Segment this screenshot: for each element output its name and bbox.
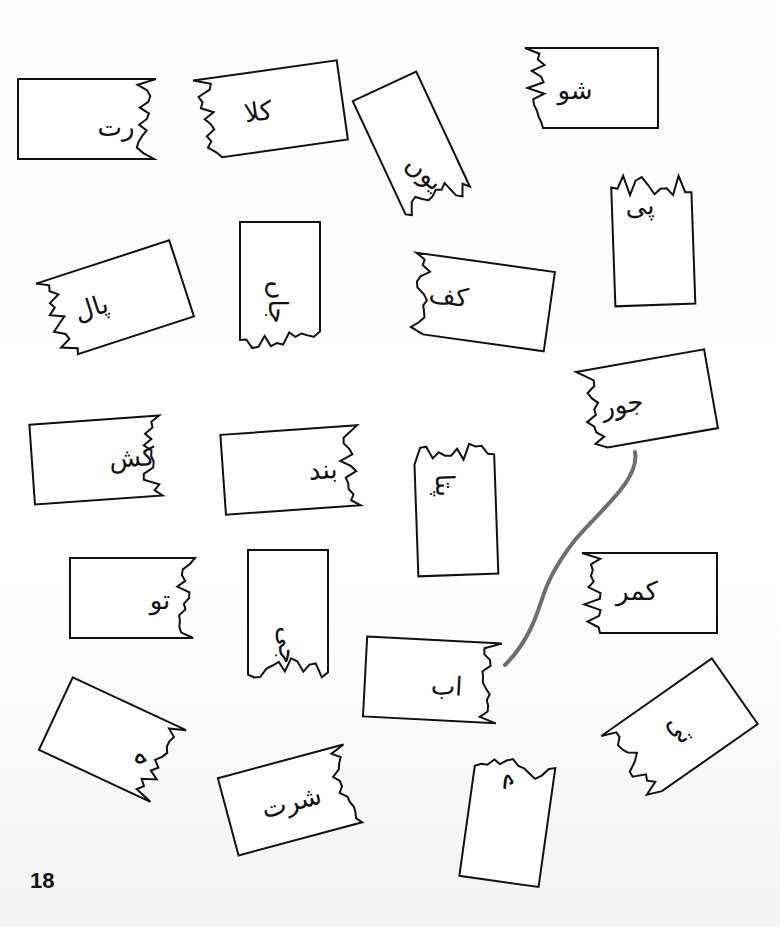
word-card[interactable]: کف <box>405 253 555 352</box>
torn-paper-shape <box>220 425 362 514</box>
word-card[interactable]: یوں <box>353 72 473 224</box>
word-card[interactable]: اب <box>363 637 502 724</box>
torn-paper-shape <box>70 558 195 638</box>
card-word-fragment: کمر <box>616 578 658 604</box>
card-word-fragment: پی <box>625 192 655 219</box>
word-card[interactable]: شو <box>525 48 658 128</box>
torn-paper-shape <box>353 72 473 224</box>
card-word-fragment: اب <box>430 672 463 700</box>
word-card[interactable]: شرت <box>218 745 364 856</box>
word-card[interactable]: جور <box>576 349 718 450</box>
torn-paper-shape <box>18 79 156 159</box>
word-card[interactable]: تی <box>601 659 757 802</box>
word-card[interactable]: کمر <box>582 553 717 633</box>
card-word-fragment: کلا <box>242 97 273 127</box>
torn-paper-shape <box>414 439 499 577</box>
card-word-fragment: کف <box>427 280 470 311</box>
word-card[interactable]: تو <box>70 558 195 638</box>
card-word-fragment: بند <box>308 456 338 484</box>
word-card[interactable]: جاں <box>240 222 320 352</box>
card-word-fragment: شو <box>557 77 592 103</box>
torn-paper-shape <box>36 240 194 359</box>
torn-paper-shape <box>459 747 556 887</box>
torn-paper-shape <box>39 677 186 802</box>
word-card[interactable]: رت <box>18 79 156 159</box>
word-card[interactable]: پال <box>36 240 194 359</box>
card-word-fragment: جی <box>275 626 301 664</box>
worksheet-page: رتکلایوںشوپیپالجاںکفجورکشبندپتاتوجیکمراب… <box>0 0 780 927</box>
word-card[interactable]: ہ <box>39 677 186 802</box>
word-card[interactable]: ے <box>459 747 556 887</box>
word-card[interactable]: بند <box>220 425 362 514</box>
word-card[interactable]: پی <box>611 169 696 307</box>
word-card[interactable]: کش <box>29 416 164 505</box>
card-word-fragment: رت <box>97 114 134 140</box>
page-number: 18 <box>30 868 54 894</box>
card-word-fragment: تو <box>150 587 171 613</box>
word-card[interactable]: پتا <box>414 439 499 577</box>
word-card[interactable]: جی <box>248 550 328 680</box>
torn-paper-shape <box>576 349 718 450</box>
card-word-fragment: کش <box>108 443 155 472</box>
card-word-fragment: جاں <box>265 280 291 323</box>
card-word-fragment: جور <box>599 388 645 421</box>
card-word-fragment: پتا <box>432 473 459 497</box>
word-card[interactable]: کلا <box>193 60 348 159</box>
